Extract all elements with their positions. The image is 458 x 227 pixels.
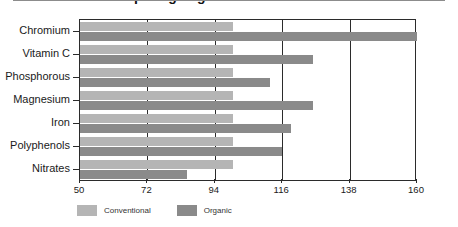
category-tick-chromium [73,31,79,32]
chart-legend: ConventionalOrganic [77,202,232,218]
bar-group-iron [80,114,415,137]
category-label-nitrates: Nitrates [32,163,70,174]
bar-organic-polyphenols[interactable] [80,147,282,156]
bar-conventional-phosphorous[interactable] [80,68,233,77]
category-tick-magnesium [73,100,79,101]
bar-organic-phosphorous[interactable] [80,78,270,87]
x-tickmark-160 [416,179,417,183]
category-label-polyphenols: Polyphenols [10,140,70,151]
category-tick-phosphorous [73,77,79,78]
x-tick-label-116: 116 [274,184,289,195]
bar-organic-vitamin-c[interactable] [80,55,313,64]
x-tickmark-138 [349,179,350,183]
category-label-phosphorous: Phosphorous [5,71,70,82]
x-tick-label-138: 138 [341,184,357,195]
legend-swatch-organic [177,205,197,216]
bar-group-vitamin-c [80,45,415,68]
x-tickmark-94 [214,179,215,183]
legend-label-organic: Organic [204,206,232,215]
bar-group-magnesium [80,91,415,114]
bar-organic-iron[interactable] [80,124,291,133]
bar-organic-nitrates[interactable] [80,170,187,179]
x-tick-label-50: 50 [74,184,85,195]
bar-conventional-chromium[interactable] [80,22,233,31]
bar-conventional-iron[interactable] [80,114,233,123]
chart-plot-area [79,19,416,181]
x-tickmark-116 [281,179,282,183]
bar-conventional-nitrates[interactable] [80,160,233,169]
bar-conventional-vitamin-c[interactable] [80,45,233,54]
category-axis-labels: ChromiumVitamin CPhosphorousMagnesiumIro… [0,19,79,181]
x-tick-label-94: 94 [209,184,220,195]
bar-conventional-magnesium[interactable] [80,91,233,100]
category-tick-iron [73,123,79,124]
category-tick-nitrates [73,169,79,170]
bar-conventional-polyphenols[interactable] [80,137,233,146]
legend-label-conventional: Conventional [104,206,151,215]
title-divider-rule [13,0,445,1]
category-label-chromium: Chromium [19,25,70,36]
category-tick-polyphenols [73,146,79,147]
bar-group-chromium [80,22,415,45]
category-label-iron: Iron [51,117,70,128]
x-tick-label-160: 160 [408,184,424,195]
x-tickmark-50 [79,179,80,183]
category-label-vitamin-c: Vitamin C [23,48,70,59]
legend-entry-organic[interactable]: Organic [177,205,232,216]
x-tick-label-72: 72 [141,184,152,195]
category-label-magnesium: Magnesium [13,94,70,105]
bar-group-polyphenols [80,137,415,160]
bars-layer [80,20,415,180]
chart-title-area: Comparing Organic and Conventional [0,0,458,7]
bar-organic-magnesium[interactable] [80,101,313,110]
bar-group-phosphorous [80,68,415,91]
x-tickmark-72 [146,179,147,183]
x-axis-tick-labels: 507294116138160 [0,184,458,198]
legend-swatch-conventional [77,205,97,216]
legend-entry-conventional[interactable]: Conventional [77,205,151,216]
bar-organic-chromium[interactable] [80,32,417,41]
category-tick-vitamin-c [73,54,79,55]
bar-group-nitrates [80,160,415,183]
